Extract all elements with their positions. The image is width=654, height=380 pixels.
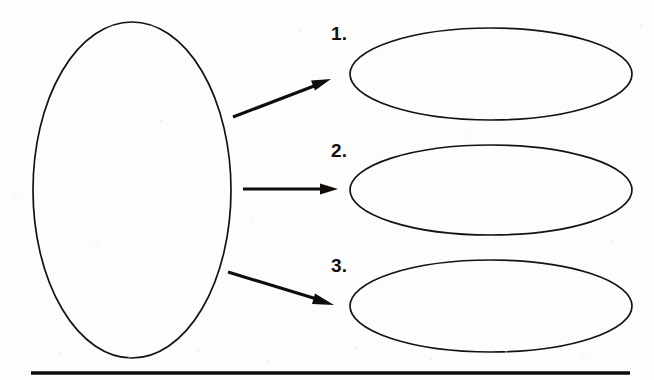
branch-ellipse-3[interactable] — [350, 260, 632, 352]
arrowhead-3 — [312, 294, 334, 306]
central-topic-ellipse[interactable] — [33, 22, 231, 358]
branch-arrow-2 — [243, 184, 338, 195]
branch-ellipse-1[interactable] — [350, 28, 632, 120]
branch-arrow-3 — [228, 272, 334, 305]
concept-map-diagram — [0, 0, 654, 380]
branch-number-2: 2. — [331, 141, 347, 160]
branch-number-3: 3. — [331, 256, 347, 275]
branch-arrow-1 — [233, 79, 331, 117]
worksheet-canvas: 1. 2. 3. — [0, 0, 654, 380]
arrowhead-2 — [320, 184, 338, 195]
arrowhead-1 — [311, 79, 331, 91]
branch-ellipse-2[interactable] — [350, 145, 632, 235]
branch-number-1: 1. — [331, 24, 347, 43]
